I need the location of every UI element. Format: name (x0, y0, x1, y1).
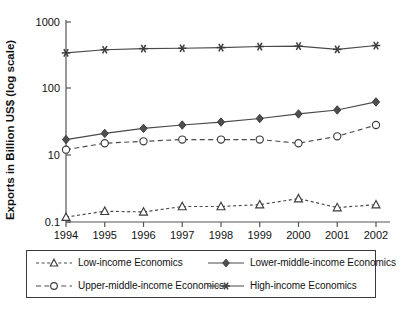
y-axis-tick-labels: 1000100100.1 (36, 16, 60, 228)
x-tick-label: 2001 (325, 229, 349, 241)
chart-figure: Exports in Billion US$ (log scale) 10001… (0, 0, 405, 312)
y-tick-label: 1000 (36, 16, 60, 28)
data-point-marker (256, 136, 263, 143)
x-tick-label: 2000 (286, 229, 310, 241)
x-tick-label: 2002 (364, 229, 388, 241)
data-point-marker (295, 110, 302, 118)
legend-marker-asterisk-icon (207, 280, 245, 292)
x-axis-tick-labels: 199419951996199719981999200020012002 (54, 229, 388, 241)
legend-marker-circle-open-icon (35, 280, 73, 292)
legend-marker-triangle-open-icon (35, 257, 73, 269)
data-point-marker (372, 42, 381, 49)
data-point-marker (372, 98, 379, 106)
legend-item[interactable]: Low-income Economics (27, 257, 203, 269)
y-tick-label: 0.1 (45, 216, 60, 228)
data-point-marker (222, 282, 230, 289)
data-point-marker (333, 46, 342, 53)
data-point-marker (179, 136, 186, 143)
data-point-marker (255, 43, 264, 50)
series-4 (62, 42, 381, 57)
legend-label: Low-income Economics (78, 257, 183, 268)
data-point-marker (372, 121, 379, 128)
y-tick-label: 100 (42, 82, 60, 94)
data-series-layer (62, 42, 381, 221)
data-point-marker (223, 259, 230, 267)
data-point-marker (178, 45, 187, 52)
data-point-marker (295, 140, 302, 147)
data-point-marker (51, 282, 58, 289)
data-point-marker (101, 129, 108, 137)
data-point-marker (101, 140, 108, 147)
data-point-marker (50, 259, 57, 266)
data-point-marker (100, 46, 109, 53)
legend-item[interactable]: High-income Economics (203, 280, 377, 292)
legend-marker-diamond-filled-icon (207, 257, 245, 269)
chart-legend: Low-income EconomicsLower-middle-income … (26, 250, 376, 298)
data-point-marker (62, 135, 69, 143)
data-point-marker (140, 124, 147, 132)
data-point-marker (334, 106, 341, 114)
legend-label: Lower-middle-income Economics (250, 257, 396, 268)
x-tick-label: 1997 (170, 229, 194, 241)
data-point-marker (139, 45, 148, 52)
y-axis-title: Exports in Billion US$ (log scale) (4, 40, 16, 220)
data-point-marker (256, 114, 263, 122)
data-point-marker (140, 138, 147, 145)
series-1 (62, 194, 380, 220)
data-point-marker (217, 118, 224, 126)
y-axis-title-group: Exports in Billion US$ (log scale) (4, 40, 16, 220)
data-point-marker (372, 200, 380, 207)
data-point-marker (295, 194, 303, 201)
y-tick-label: 10 (48, 149, 60, 161)
x-tick-label: 1995 (93, 229, 117, 241)
data-point-marker (179, 121, 186, 129)
data-point-marker (217, 44, 226, 51)
data-point-marker (334, 133, 341, 140)
legend-item[interactable]: Lower-middle-income Economics (203, 257, 377, 269)
x-tick-label: 1998 (209, 229, 233, 241)
legend-label: High-income Economics (250, 280, 357, 291)
data-point-marker (217, 136, 224, 143)
data-point-marker (294, 42, 303, 49)
x-tick-label: 1994 (54, 229, 78, 241)
data-point-marker (62, 146, 69, 153)
legend-label: Upper-middle-income Economics (78, 280, 224, 291)
exports-log-line-chart: Exports in Billion US$ (log scale) 10001… (0, 0, 405, 250)
x-tick-label: 1999 (248, 229, 272, 241)
legend-item[interactable]: Upper-middle-income Economics (27, 280, 203, 292)
x-tick-label: 1996 (131, 229, 155, 241)
